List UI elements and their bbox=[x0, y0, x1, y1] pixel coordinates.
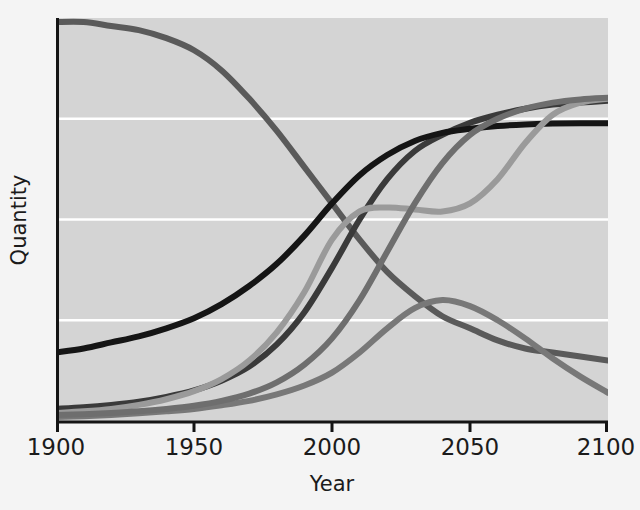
xtick-label-1900: 1900 bbox=[27, 434, 86, 460]
xtick-label-2000: 2000 bbox=[303, 434, 362, 460]
xtick-label-2100: 2100 bbox=[577, 434, 636, 460]
xtick-label-1950: 1950 bbox=[165, 434, 224, 460]
y-axis-title: Quantity bbox=[7, 175, 31, 266]
xtick-label-2050: 2050 bbox=[441, 434, 500, 460]
line-chart: 1900 1950 2000 2050 2100 Year Quantity bbox=[0, 0, 640, 510]
chart-figure: 1900 1950 2000 2050 2100 Year Quantity bbox=[0, 0, 640, 510]
x-axis-title: Year bbox=[309, 472, 355, 496]
